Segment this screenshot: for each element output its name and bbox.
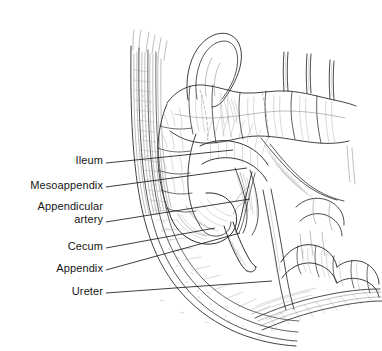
label-appendix-line-1: Appendix [56,262,103,275]
small-bowel-upper-coil [296,198,344,236]
label-ureter: Ureter [72,285,103,298]
label-appendix: Appendix [56,262,103,275]
label-cecum-line-1: Cecum [68,240,103,253]
label-appendicular-artery-line-2: artery [38,213,103,226]
label-mesoappendix-line-1: Mesoappendix [30,179,103,192]
leader-appendix [106,233,240,270]
leader-mesoappendix [106,168,247,187]
anatomical-figure: Ileum Mesoappendix Appendicular artery C… [0,0,382,351]
iliacus-psoas [250,138,382,330]
label-ileum: Ileum [76,154,103,167]
hepatic-flexure [187,33,242,125]
leader-appendicular-artery [106,199,250,222]
label-ureter-line-1: Ureter [72,285,103,298]
label-appendicular-artery: Appendicular artery [38,200,103,226]
label-ileum-line-1: Ileum [76,154,103,167]
label-mesoappendix: Mesoappendix [30,179,103,192]
ureter-tube [263,189,294,310]
label-appendicular-artery-line-1: Appendicular [38,200,103,213]
illustration-canvas [0,0,382,351]
label-cecum: Cecum [68,240,103,253]
leader-ileum [106,150,233,163]
terminal-ileum [200,116,269,181]
small-bowel-loops [281,198,379,297]
